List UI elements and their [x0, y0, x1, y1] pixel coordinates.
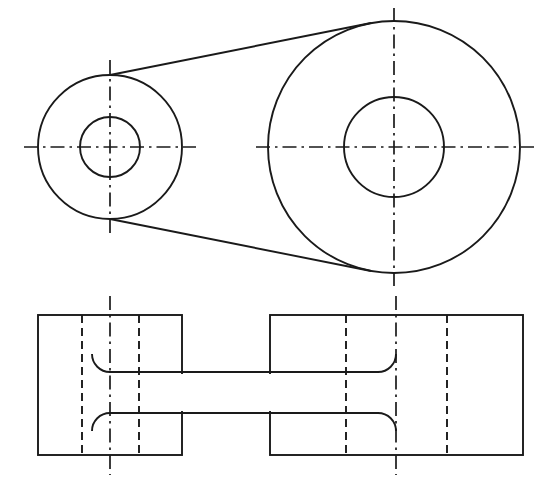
- engineering-drawing-svg: [0, 0, 547, 492]
- technical-drawing-canvas: [0, 0, 547, 492]
- right-block-web-cut-mask: [267, 374, 273, 411]
- left-block-web-cut-mask: [179, 374, 185, 411]
